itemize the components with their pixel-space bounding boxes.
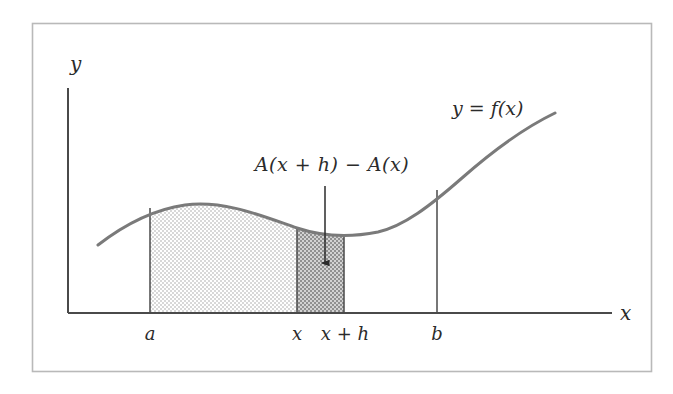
tick-label-x: x: [292, 325, 302, 343]
x-axis-label: x: [620, 303, 631, 323]
y-axis-label: y: [70, 54, 81, 74]
curve-equation-label: y = f(x): [452, 99, 523, 118]
figure-root: y x y = f(x) A(x + h) − A(x) a x x + h b: [0, 0, 673, 394]
area-difference-annotation: A(x + h) − A(x): [255, 155, 409, 174]
tick-label-x-plus-h: x + h: [321, 325, 369, 343]
tick-label-a: a: [145, 325, 156, 343]
tick-label-b: b: [431, 325, 443, 343]
figure-border: [33, 24, 652, 372]
